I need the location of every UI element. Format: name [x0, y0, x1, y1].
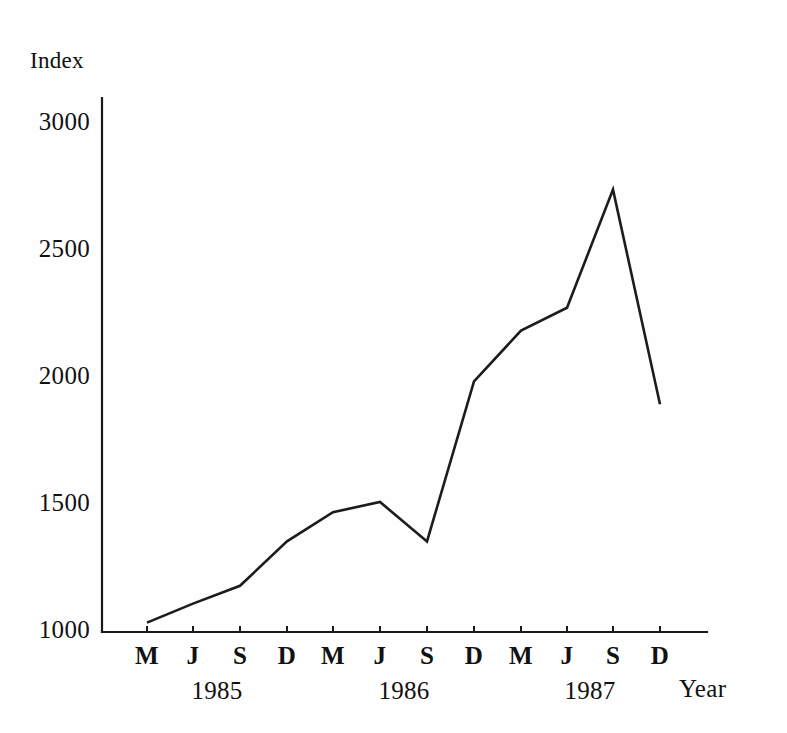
y-tick-label-1500: 1500 — [18, 489, 90, 517]
x-tick-label-d-1986: D — [454, 642, 494, 670]
x-group-label-1985: 1985 — [162, 677, 272, 705]
y-tick-label-3000: 3000 — [18, 108, 90, 136]
y-tick-label-2500: 2500 — [18, 235, 90, 263]
x-tick-label-s-1986: S — [407, 642, 447, 670]
x-tick-label-s-1985: S — [220, 642, 260, 670]
line-chart-canvas — [0, 0, 787, 733]
x-tick-label-m-1985: M — [127, 642, 167, 670]
x-tick-label-d-1987: D — [640, 642, 680, 670]
x-tick-label-j-1987: J — [547, 642, 587, 670]
chart-page: Index 3000 2500 2000 1500 1000 M J S D M… — [0, 0, 787, 733]
x-tick-label-m-1987: M — [501, 642, 541, 670]
x-tick-label-m-1986: M — [313, 642, 353, 670]
x-group-label-1986: 1986 — [349, 677, 459, 705]
y-tick-label-2000: 2000 — [18, 362, 90, 390]
x-tick-label-j-1985: J — [173, 642, 213, 670]
x-axis-title: Year — [679, 675, 726, 703]
x-group-label-1987: 1987 — [535, 677, 645, 705]
index-series-line — [147, 190, 660, 623]
x-tick-label-j-1986: J — [360, 642, 400, 670]
y-tick-label-1000: 1000 — [18, 616, 90, 644]
x-tick-label-d-1985: D — [267, 642, 307, 670]
y-axis-title: Index — [30, 48, 84, 74]
x-tick-label-s-1987: S — [593, 642, 633, 670]
